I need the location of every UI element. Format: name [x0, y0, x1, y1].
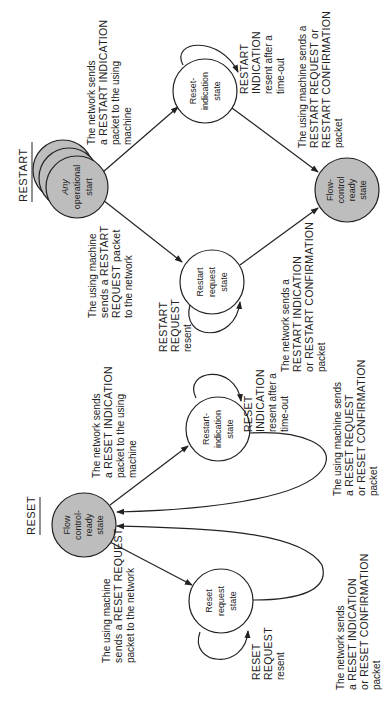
svg-text:machine: machine: [122, 107, 133, 145]
svg-text:machine: machine: [127, 440, 138, 478]
svg-text:sends a RESET REQUEST: sends a RESET REQUEST: [112, 528, 124, 663]
state-restart-indication: Restart- indication state: [186, 397, 250, 461]
state-restart-request: Restart request state: [180, 250, 244, 314]
reset-title: RESET: [25, 496, 37, 535]
svg-text:a RESTART INDICATION: a RESTART INDICATION: [97, 20, 109, 145]
state-reset-indication: Reset- indication state: [173, 59, 237, 123]
svg-text:control: control: [336, 176, 346, 203]
label-reset-network-sends-indication: The network sends a RESET INDICATION pac…: [91, 366, 138, 478]
svg-text:resent after a: resent after a: [267, 373, 278, 432]
svg-text:a RESET REQUEST: a RESET REQUEST: [343, 394, 355, 496]
svg-text:packet to the using: packet to the using: [110, 61, 121, 145]
svg-text:REQUEST: REQUEST: [169, 299, 181, 352]
svg-text:packet: packet: [371, 660, 382, 690]
svg-text:packet: packet: [368, 466, 379, 496]
svg-text:state: state: [358, 180, 368, 200]
svg-text:indication: indication: [213, 410, 223, 448]
svg-text:RESTART: RESTART: [157, 302, 169, 352]
svg-text:packet: packet: [333, 118, 344, 148]
svg-text:RESTART INDICATION: RESTART INDICATION: [291, 256, 303, 372]
svg-text:to the network: to the network: [123, 254, 134, 318]
svg-text:resent after a: resent after a: [263, 35, 274, 94]
svg-text:RESTART REQUEST or: RESTART REQUEST or: [308, 29, 320, 148]
svg-text:packet to the network: packet to the network: [125, 567, 136, 663]
label-restart-machine-sends-confirm: The using machine sends a RESTART REQUES…: [297, 11, 344, 148]
svg-text:The using machine: The using machine: [87, 233, 98, 318]
svg-text:Flow-: Flow-: [325, 179, 335, 201]
state-diagram: RESTART Any operational start Reset-: [0, 0, 392, 705]
svg-text:sends a RESTART: sends a RESTART: [98, 225, 110, 318]
svg-text:time-out: time-out: [279, 396, 290, 432]
svg-text:INDICATION: INDICATION: [250, 31, 262, 94]
label-reset-machine-sends-confirm: The using machine sends a RESET REQUEST …: [332, 359, 379, 496]
svg-text:request: request: [207, 266, 217, 297]
svg-text:state: state: [212, 81, 222, 101]
svg-text:ready: ready: [84, 513, 94, 536]
svg-text:start: start: [84, 178, 94, 196]
restart-title: RESTART: [17, 148, 29, 202]
svg-text:or RESTART CONFIRMATION: or RESTART CONFIRMATION: [303, 222, 315, 372]
label-restart-request-resent: RESTART REQUEST resent: [157, 299, 193, 352]
svg-text:RESET: RESET: [250, 643, 262, 680]
svg-text:or RESET CONFIRMATION: or RESET CONFIRMATION: [358, 553, 370, 690]
svg-text:indication: indication: [200, 72, 210, 110]
svg-text:RESET: RESET: [242, 395, 254, 432]
svg-text:packet to the using: packet to the using: [115, 394, 126, 478]
svg-text:control-: control-: [73, 510, 83, 540]
svg-text:Restart: Restart: [195, 267, 205, 297]
svg-text:state: state: [95, 515, 105, 535]
svg-text:request: request: [216, 585, 226, 616]
svg-text:Reset: Reset: [204, 589, 214, 613]
svg-text:state: state: [219, 272, 229, 292]
svg-text:REQUEST: REQUEST: [262, 627, 274, 680]
loop-reset-request-resent: [198, 631, 248, 659]
svg-text:state: state: [228, 591, 238, 611]
svg-text:The network sends a: The network sends a: [280, 279, 291, 372]
svg-text:resent: resent: [182, 324, 193, 352]
label-reset-network-sends-confirm: The network sends a RESET INDICATION or …: [335, 553, 382, 690]
svg-text:a RESET INDICATION: a RESET INDICATION: [102, 366, 114, 478]
restart-section: RESTART Any operational start Reset-: [17, 11, 379, 372]
svg-text:The using machine sends: The using machine sends: [332, 382, 343, 496]
svg-text:The using machine sends a: The using machine sends a: [297, 25, 308, 148]
svg-text:The network sends: The network sends: [91, 394, 102, 479]
label-restart-network-sends-indication: The network sends a RESTART INDICATION p…: [86, 20, 133, 145]
svg-text:The network sends: The network sends: [86, 61, 97, 146]
svg-text:INDICATION: INDICATION: [254, 369, 266, 432]
svg-text:time-out: time-out: [275, 58, 286, 94]
svg-text:Restart-: Restart-: [201, 413, 211, 445]
svg-text:RESTART CONFIRMATION: RESTART CONFIRMATION: [320, 11, 332, 148]
label-reset-indication-resent: RESET INDICATION resent after a time-out: [242, 369, 290, 432]
svg-text:Any: Any: [60, 179, 70, 196]
svg-text:or RESET CONFIRMATION: or RESET CONFIRMATION: [355, 359, 367, 496]
svg-text:ready: ready: [347, 178, 357, 201]
state-reset-request: Reset request state: [189, 569, 253, 633]
label-restart-network-sends-confirm: The network sends a RESTART INDICATION o…: [280, 222, 327, 372]
reset-section: RESET Flow control- ready state Restart-…: [25, 359, 382, 690]
label-restart-machine-sends-request: The using machine sends a RESTART REQUES…: [87, 225, 134, 318]
svg-text:RESTART: RESTART: [238, 44, 250, 94]
svg-text:The using machine: The using machine: [101, 578, 112, 663]
svg-text:packet: packet: [316, 342, 327, 372]
state-flow-control-ready-reset: Flow control- ready state: [52, 493, 116, 557]
svg-text:a RESET INDICATION: a RESET INDICATION: [346, 578, 358, 690]
svg-text:Flow: Flow: [62, 515, 72, 535]
svg-text:The network sends: The network sends: [335, 606, 346, 691]
label-reset-request-resent: RESET REQUEST resent: [250, 627, 286, 680]
svg-text:state: state: [225, 419, 235, 439]
state-flow-control-ready-restart: Flow- control ready state: [315, 158, 379, 222]
label-restart-indication-resent: RESTART INDICATION resent after a time-o…: [238, 31, 286, 94]
svg-text:resent: resent: [275, 652, 286, 680]
state-any-operational-start: Any operational start: [33, 140, 108, 218]
svg-text:Reset-: Reset-: [188, 78, 198, 105]
svg-text:operational: operational: [72, 165, 82, 210]
svg-text:REQUEST packet: REQUEST packet: [110, 229, 122, 318]
